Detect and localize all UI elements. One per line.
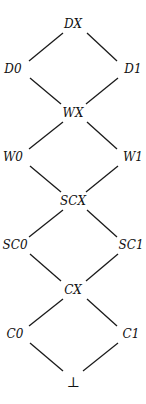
node-bottom: ⊥ [66,375,79,389]
node-d0: D0 [4,63,21,75]
node-cx: CX [64,284,82,296]
edge-cx-c0 [29,299,63,326]
node-dx: DX [64,18,82,30]
edge-d0-wx [30,78,61,104]
edge-wx-w1 [87,122,117,149]
node-w1: W1 [123,151,143,163]
node-wx: WX [63,107,84,119]
node-c1: C1 [123,328,140,340]
edge-cx-c1 [87,299,117,326]
edge-sc1-cx [86,254,118,281]
edge-w0-scx [30,166,61,192]
edge-wx-w0 [29,122,63,149]
edge-w1-scx [86,166,118,192]
edge-d1-wx [86,78,118,104]
edge-c1-bot [83,343,118,371]
node-sc1: SC1 [118,239,143,251]
node-w0: W0 [3,151,23,163]
node-d1: D1 [124,63,141,75]
lattice-diagram: DX D0 D1 WX W0 W1 SCX SC0 SC1 CX C0 C1 ⊥ [0,0,146,404]
node-sc0: SC0 [2,239,27,251]
edge-scx-sc0 [29,210,63,237]
node-c0: C0 [7,328,24,340]
edge-c0-bot [30,343,63,371]
edge-scx-sc1 [87,210,117,237]
edge-dx-d1 [87,33,117,61]
edge-sc0-cx [30,254,61,281]
node-scx: SCX [60,195,86,207]
edge-dx-d0 [29,33,63,61]
